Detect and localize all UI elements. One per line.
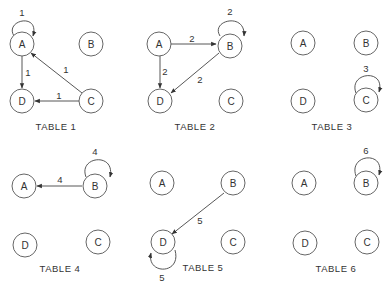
svg-text:C: C [87,96,94,107]
svg-text:A: A [301,178,308,189]
node-a: A [10,32,34,56]
edge-weight: 1 [25,67,30,78]
svg-text:C: C [229,237,236,248]
edge-weight: 4 [57,174,62,185]
edge-b-d [171,53,219,93]
svg-text:D: D [18,96,25,107]
node-b: B [218,34,242,58]
edge-weight: 2 [227,6,232,17]
edge-weight: 5 [159,272,164,283]
node-d: D [291,89,315,113]
node-c: C [219,89,243,113]
svg-text:B: B [227,41,234,52]
panel-title: TABLE 3 [312,121,353,132]
diagram-canvas: 1 1 1 1 A B C D TABLE 1 2 2 2 2 A B C D … [0,0,387,289]
svg-text:A: A [21,181,28,192]
node-d: D [293,231,317,255]
svg-text:B: B [230,178,237,189]
node-b: B [79,32,103,56]
panel-title: TABLE 6 [316,263,357,274]
edge-weight: 1 [19,7,24,18]
node-c: C [354,88,378,112]
node-d: D [148,89,172,113]
edge-weight: 4 [92,146,97,157]
node-a: A [291,31,315,55]
edge-b-d [172,193,224,234]
svg-text:A: A [19,39,26,50]
svg-text:A: A [159,178,166,189]
edge-weight: 3 [363,63,368,74]
panel-table-2: 2 2 2 2 A B C D TABLE 2 [147,6,244,133]
svg-text:C: C [362,95,369,106]
panel-table-6: 6 A B C D TABLE 6 [292,145,380,275]
svg-text:C: C [94,237,101,248]
node-a: A [292,171,316,195]
svg-text:D: D [301,238,308,249]
edge-weight: 6 [363,145,368,156]
node-c: C [79,89,103,113]
svg-text:D: D [156,96,163,107]
node-d: D [13,233,37,257]
panel-title: TABLE 1 [36,121,77,132]
node-b: B [221,171,245,195]
svg-text:B: B [363,178,370,189]
node-c: C [86,230,110,254]
svg-text:A: A [300,38,307,49]
panel-table-3: 3 A B C D TABLE 3 [291,31,380,132]
edge-weight: 1 [63,64,68,75]
node-c: C [355,230,379,254]
node-b: B [354,31,378,55]
panel-table-1: 1 1 1 1 A B C D TABLE 1 [10,7,103,133]
node-a: A [150,171,174,195]
node-c: C [221,230,245,254]
edge-weight: 5 [197,215,202,226]
panel-title: TABLE 4 [40,263,81,274]
panel-title: TABLE 5 [183,262,224,273]
node-b: B [83,174,107,198]
edge-weight: 2 [162,66,167,77]
edge-weight: 2 [189,33,194,44]
svg-text:B: B [88,39,95,50]
svg-text:D: D [299,96,306,107]
panel-title: TABLE 2 [175,121,216,132]
svg-text:C: C [363,237,370,248]
node-d: D [151,230,175,254]
svg-text:D: D [21,240,28,251]
node-d: D [10,89,34,113]
svg-text:B: B [363,38,370,49]
svg-text:B: B [92,181,99,192]
edge-weight: 1 [56,90,61,101]
svg-text:D: D [159,237,166,248]
edge-weight: 2 [197,74,202,85]
node-b: B [354,171,378,195]
panel-table-5: 5 5 A B C D TABLE 5 [150,171,245,283]
edge-c-a [31,53,82,93]
node-a: A [12,174,36,198]
panel-table-4: 4 4 A B C D TABLE 4 [12,146,111,275]
svg-text:C: C [227,96,234,107]
svg-text:A: A [156,39,163,50]
node-a: A [147,32,171,56]
